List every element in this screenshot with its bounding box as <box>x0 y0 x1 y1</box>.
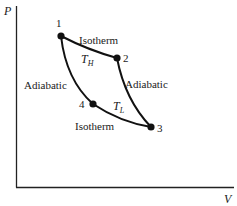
adiabatic-left-label: Adiabatic <box>24 79 67 91</box>
point-3-label: 3 <box>157 122 163 134</box>
isotherm-bottom-label: Isotherm <box>75 120 115 132</box>
y-axis-label: P <box>3 4 12 18</box>
point-1-label: 1 <box>56 17 62 29</box>
isotherm-top-label: Isotherm <box>79 34 119 46</box>
temperature-high-label: TH <box>81 52 95 68</box>
adiabatic-right-label: Adiabatic <box>125 78 168 90</box>
point-1-marker <box>57 32 64 39</box>
pv-diagram: P V 1 2 3 4 Isotherm Adiabatic Adiabatic… <box>0 0 237 206</box>
adiabatic-left-curve <box>61 36 93 104</box>
point-2-marker <box>113 54 120 61</box>
x-axis-label: V <box>224 192 233 206</box>
point-4-marker <box>89 100 96 107</box>
adiabatic-right-curve <box>117 58 151 127</box>
point-2-label: 2 <box>123 52 129 64</box>
temperature-low-label: TL <box>113 99 125 115</box>
point-4-label: 4 <box>79 98 85 110</box>
point-3-marker <box>147 123 154 130</box>
